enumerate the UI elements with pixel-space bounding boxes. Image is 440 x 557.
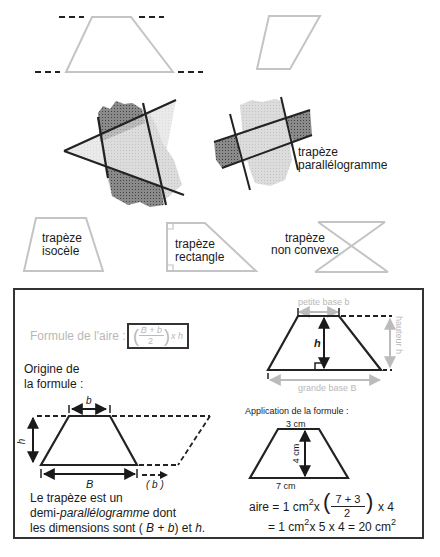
text: x — [314, 500, 320, 514]
origin-b-paren-label: ( b ) — [146, 478, 164, 491]
label-line: Origine de — [24, 362, 83, 377]
triangle-strips-icon — [64, 100, 184, 207]
h-label: h — [314, 337, 321, 350]
explanation-line: Le trapèze est un — [30, 491, 205, 506]
right-label: trapèze rectangle — [175, 238, 224, 264]
calc-numerator: 7 + 3 — [331, 493, 365, 507]
label-line: isocèle — [42, 245, 82, 258]
label-line: parallélogramme — [298, 159, 387, 172]
parallelogram-icon — [257, 16, 320, 69]
superscript: 2 — [391, 517, 396, 527]
text: ) et — [174, 521, 195, 535]
label-line: la formule : — [24, 377, 83, 392]
text: aire = 1 cm — [249, 500, 309, 514]
paren-right: ) — [366, 491, 373, 513]
text: parallélogramme — [60, 506, 149, 520]
large-base-label: grande base B — [298, 382, 357, 395]
label-line: rectangle — [175, 251, 224, 264]
text: h — [195, 521, 202, 535]
paren-right: ) — [164, 326, 170, 347]
origin-h-label: h — [15, 439, 28, 445]
non-convex-label: trapèze non convexe — [265, 232, 345, 257]
text: dont — [149, 506, 176, 520]
calc-line-2: = 1 cm2x 5 x 4 = 20 cm2 — [268, 521, 396, 534]
application-bottom-label: 7 cm — [276, 480, 296, 493]
text: les dimensions sont ( — [30, 521, 146, 535]
area-formula: ( B + b 2 ) x h — [127, 323, 189, 349]
small-base-text: petite base b — [298, 297, 350, 307]
text: B — [146, 521, 154, 535]
text: + — [154, 521, 168, 535]
trapezoid-dashed-icon — [35, 17, 203, 72]
label-line: non convexe — [265, 244, 345, 257]
text: demi- — [30, 506, 60, 520]
calc-tail: x 4 — [378, 501, 394, 514]
parallelogram-trapezoid-label: trapèze parallélogramme — [298, 146, 387, 172]
explanation-line: demi-parallélogramme dont — [30, 506, 205, 521]
calc-line-1: aire = 1 cm2x — [249, 501, 320, 514]
formula-label: Formule de l'aire : — [30, 330, 126, 343]
formula-numerator: B + b — [139, 325, 164, 336]
text: = 1 cm — [268, 520, 304, 534]
calc-denominator: 2 — [344, 507, 350, 520]
parallelogram-strips-icon — [214, 97, 312, 190]
text: x 5 x 4 = 20 cm — [309, 520, 391, 534]
explanation-text: Le trapèze est un demi-parallélogramme d… — [30, 491, 205, 536]
origin-B-label: B — [86, 478, 93, 491]
application-height-label: 4 cm — [290, 444, 303, 464]
origin-b-label: b — [86, 394, 92, 407]
origin-heading: Origine de la formule : — [24, 362, 83, 392]
explanation-line: les dimensions sont ( B + b) et h. — [30, 521, 205, 536]
formula-denominator: 2 — [148, 336, 153, 346]
height-label: hauteur h — [392, 316, 405, 354]
formula-tail: x h — [171, 331, 183, 341]
paren-left: ( — [323, 491, 330, 513]
application-title: Application de la formule : — [245, 405, 349, 418]
small-base-label: petite base b — [298, 296, 350, 309]
application-top-label: 3 cm — [286, 418, 306, 431]
isosceles-label: trapèze isocèle — [42, 232, 82, 258]
text: . — [202, 521, 205, 535]
